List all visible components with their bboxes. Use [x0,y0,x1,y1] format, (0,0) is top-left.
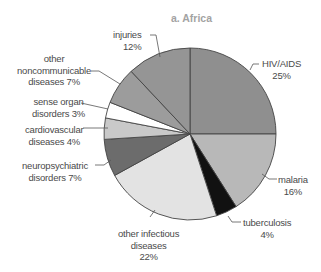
label-text: tuberculosis [243,217,291,229]
label-malaria: malaria 16% [278,174,308,197]
label-value: 16% [278,186,308,198]
label-text: cardiovascular [25,124,83,136]
label-text: neuropsychiatric [22,160,88,172]
label-value: 12% [113,41,142,53]
label-text: injuries [113,29,142,41]
leader-sense [81,103,108,109]
label-value: diseases 7% [17,76,91,88]
leader-noncomm [91,71,120,84]
label-hiv: HIV/AIDS 25% [262,58,301,81]
label-other-infectious: other infectious diseases 22% [118,228,179,263]
label-value: 4% [243,229,291,241]
label-value: diseases 4% [25,136,83,148]
label-text: other infectious [118,228,179,240]
label-injuries: injuries 12% [113,29,142,52]
label-value: disorders 7% [22,172,88,184]
label-value: disorders 3% [32,108,85,120]
label-text: HIV/AIDS [262,58,301,70]
leader-tb [228,216,241,222]
label-cardio: cardiovascular diseases 4% [25,124,83,147]
label-text: sense organ [32,96,85,108]
label-noncomm: other noncommunicable diseases 7% [17,53,91,88]
label-text: malaria [278,174,308,186]
chart-title: a. Africa [171,12,212,24]
label-neuro: neuropsychiatric disorders 7% [22,160,88,183]
label-text: other [17,53,91,65]
pie-slices [104,48,276,220]
leader-hiv [250,64,259,70]
label-text: noncommunicable [17,65,91,77]
label-value: 22% [118,251,179,263]
label-value: 25% [262,70,301,82]
label-text: diseases [118,240,179,252]
label-tb: tuberculosis 4% [243,217,291,240]
label-sense: sense organ disorders 3% [32,96,85,119]
